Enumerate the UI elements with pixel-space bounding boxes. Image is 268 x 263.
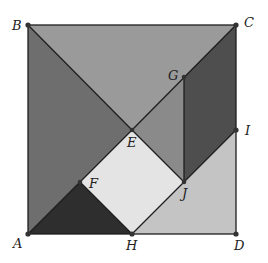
label-E: E	[126, 135, 137, 150]
point-A-dot	[25, 231, 30, 236]
label-A: A	[12, 236, 22, 251]
point-G-dot	[182, 75, 187, 80]
tangram-diagram: B C A D E F G H I J	[0, 0, 268, 263]
label-D: D	[233, 238, 245, 253]
label-C: C	[244, 15, 254, 30]
point-I-dot	[233, 127, 238, 132]
label-I: I	[244, 123, 251, 138]
point-J-dot	[182, 180, 187, 185]
point-C-dot	[233, 22, 238, 27]
label-B: B	[11, 18, 22, 33]
point-D-dot	[233, 231, 238, 236]
point-B-dot	[25, 22, 30, 27]
label-H: H	[125, 238, 138, 253]
point-H-dot	[129, 231, 134, 236]
label-F: F	[88, 176, 99, 191]
label-G: G	[168, 68, 178, 83]
point-E-dot	[130, 128, 135, 133]
point-F-dot	[78, 180, 83, 185]
